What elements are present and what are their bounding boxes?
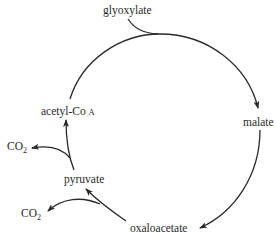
acetyl-coa-prefix: acetyl-Co xyxy=(41,105,86,117)
co2-upper-label: CO2 xyxy=(7,141,27,153)
oxaloacetate-label: oxaloacetate xyxy=(130,223,187,235)
acetyl-coa-suffix: A xyxy=(89,107,95,117)
malate-label: malate xyxy=(243,117,274,129)
co2-lower-label: CO2 xyxy=(21,208,41,220)
acetyl-coa-to-malate-arrow xyxy=(70,34,258,108)
oxaloacetate-to-pyruvate-arrow xyxy=(86,189,126,221)
glyoxylate-entry-arrow xyxy=(128,19,158,34)
co2-lower-text: CO xyxy=(21,207,37,219)
pyruvate-to-acetyl-coa-arrow xyxy=(66,120,74,170)
cycle-diagram: glyoxylate acetyl-Co A malate CO2 pyruva… xyxy=(0,0,276,238)
pyruvate-label: pyruvate xyxy=(64,174,104,186)
cycle-arrows xyxy=(0,0,276,238)
co2-lower-subscript: 2 xyxy=(37,213,41,222)
acetyl-coa-label: acetyl-Co A xyxy=(41,106,95,118)
co2-upper-text: CO xyxy=(7,140,23,152)
glyoxylate-label: glyoxylate xyxy=(103,5,152,17)
oxaloacetate-co2-arrow xyxy=(48,199,100,211)
co2-upper-subscript: 2 xyxy=(23,146,27,155)
pyruvate-co2-arrow xyxy=(32,147,70,158)
malate-to-oxaloacetate-arrow xyxy=(200,130,260,228)
